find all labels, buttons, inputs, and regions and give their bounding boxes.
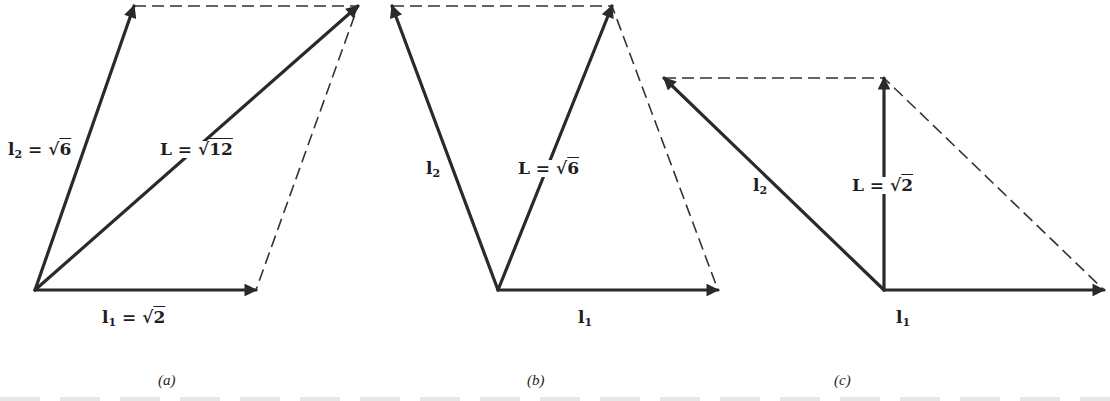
panel-b-label-L: L = √6 [518, 160, 579, 177]
panel-a-label-l2: l2 = √6 [8, 141, 71, 160]
panel-a-label-l1: l1 = √2 [102, 309, 165, 328]
panel-b [392, 6, 718, 290]
panel-b-vector-L [498, 6, 612, 290]
panel-c-caption: (c) [834, 373, 851, 388]
panel-b-caption: (b) [527, 373, 545, 388]
panel-c-vector-l2 [664, 78, 884, 290]
panel-c-label-l2: l2 [753, 177, 767, 196]
panel-c-label-l1: l1 [896, 309, 910, 328]
cropped-caption-fragment [0, 397, 1110, 401]
panel-c-label-L: L = √2 [852, 177, 913, 194]
panel-a-caption: (a) [158, 373, 176, 388]
panel-b-label-l1: l1 [578, 309, 592, 328]
vector-addition-figure [0, 0, 1110, 401]
panel-b-vector-l2 [392, 6, 498, 290]
panel-b-label-l2: l2 [426, 160, 440, 179]
panel-a-label-L: L = √12 [160, 141, 233, 158]
